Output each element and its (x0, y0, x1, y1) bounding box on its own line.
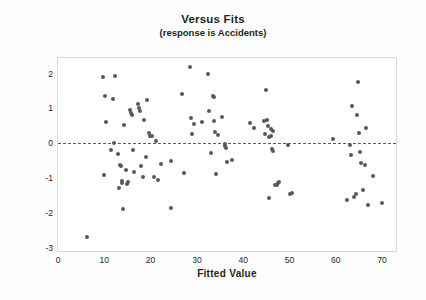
data-point (101, 75, 105, 79)
data-point (212, 95, 216, 99)
x-tick-label: 50 (285, 255, 294, 265)
data-point (271, 129, 275, 133)
data-point (356, 80, 360, 84)
data-point (124, 168, 128, 172)
zero-reference-line (58, 143, 396, 144)
data-point (363, 163, 367, 167)
data-point (214, 172, 218, 176)
data-point (358, 150, 362, 154)
data-point (169, 159, 173, 163)
data-point (104, 120, 108, 124)
data-point (141, 175, 145, 179)
data-point (126, 180, 130, 184)
x-tick-label: 30 (192, 255, 201, 265)
data-point (144, 155, 148, 159)
chart-title: Versus Fits (0, 12, 426, 26)
data-point (350, 104, 354, 108)
data-point (348, 143, 352, 147)
data-point (371, 174, 375, 178)
data-point (142, 118, 146, 122)
data-point (138, 109, 142, 113)
data-point (111, 97, 115, 101)
data-point (225, 160, 229, 164)
chart-subtitle: (response is Accidents) (0, 26, 426, 39)
data-point (207, 109, 211, 113)
data-point (132, 170, 136, 174)
data-point (345, 198, 349, 202)
data-point (361, 188, 365, 192)
data-point (349, 153, 353, 157)
data-point (354, 192, 358, 196)
data-point (265, 118, 269, 122)
data-point (139, 164, 143, 168)
data-point (159, 162, 163, 166)
data-point (380, 201, 384, 205)
data-point (169, 206, 173, 210)
data-point (366, 203, 370, 207)
y-tick-label: -1 (45, 173, 53, 183)
data-point (188, 65, 192, 69)
data-point (220, 115, 224, 119)
data-point (117, 186, 121, 190)
data-point (156, 178, 160, 182)
data-point (230, 158, 234, 162)
plot-area (58, 58, 396, 251)
data-point (130, 113, 134, 117)
x-tick-label: 0 (56, 255, 61, 265)
plot-frame: 210-1-2-3 010203040506070 (57, 57, 397, 252)
y-tick-label: 1 (48, 103, 53, 113)
data-point (180, 92, 184, 96)
data-point (216, 133, 220, 137)
data-point (190, 132, 194, 136)
data-point (189, 116, 193, 120)
data-point (290, 191, 294, 195)
data-point (102, 173, 106, 177)
data-point (182, 171, 186, 175)
data-point (212, 119, 216, 123)
data-point (355, 113, 359, 117)
data-point (206, 72, 210, 76)
x-axis-title: Fitted Value (57, 268, 397, 279)
data-point (269, 134, 273, 138)
x-tick-label: 70 (377, 255, 386, 265)
data-point (267, 196, 271, 200)
data-point (200, 120, 204, 124)
data-point (121, 207, 125, 211)
data-point (209, 151, 213, 155)
data-point (271, 149, 275, 153)
data-point (122, 123, 126, 127)
data-point (364, 126, 368, 130)
y-tick-label: 0 (48, 138, 53, 148)
data-point (192, 122, 196, 126)
data-point (131, 148, 135, 152)
data-point (103, 94, 107, 98)
data-point (331, 137, 335, 141)
data-point (113, 74, 117, 78)
data-point (109, 148, 113, 152)
data-point (357, 131, 361, 135)
data-point (116, 152, 120, 156)
x-tick-label: 40 (238, 255, 247, 265)
data-point (112, 141, 116, 145)
y-tick-label: -2 (45, 208, 53, 218)
data-point (145, 98, 149, 102)
data-point (150, 134, 154, 138)
data-point (286, 143, 290, 147)
data-point (252, 126, 256, 130)
chart-title-block: Versus Fits (response is Accidents) (0, 12, 426, 39)
data-point (224, 146, 228, 150)
data-point (119, 164, 123, 168)
data-point (277, 180, 281, 184)
data-point (248, 121, 252, 125)
chart-figure: Versus Fits (response is Accidents) Stan… (0, 0, 426, 300)
x-tick-label: 60 (331, 255, 340, 265)
data-point (264, 88, 268, 92)
x-tick-label: 20 (146, 255, 155, 265)
y-tick-label: 2 (48, 69, 53, 79)
y-tick-label: -3 (45, 243, 53, 253)
x-tick-label: 10 (100, 255, 109, 265)
data-point (85, 235, 89, 239)
